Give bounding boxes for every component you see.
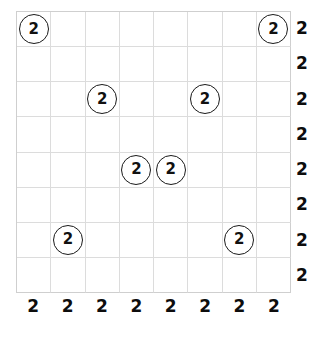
grid-cell-r6-c6[interactable]: 2 [223,223,257,258]
grid-cell-r2-c2[interactable]: 2 [86,82,120,117]
grid-cell-r7-c5[interactable] [188,258,222,293]
grid-cell-r2-c3[interactable] [120,82,154,117]
grid-cell-r1-c4[interactable] [154,47,188,82]
grid-cell-r1-c2[interactable] [86,47,120,82]
circled-number-token[interactable]: 2 [156,155,186,185]
grid-cell-r4-c4[interactable]: 2 [154,153,188,188]
grid-cell-r0-c0[interactable]: 2 [17,12,51,47]
column-clue-0: 2 [16,296,50,322]
grid-cell-r5-c2[interactable] [86,188,120,223]
grid-cell-r6-c2[interactable] [86,223,120,258]
grid-cell-r2-c5[interactable]: 2 [188,82,222,117]
grid-cell-r3-c6[interactable] [223,117,257,152]
column-clue-5: 2 [188,296,222,322]
grid-cell-r6-c5[interactable] [188,223,222,258]
grid-cell-r4-c3[interactable]: 2 [120,153,154,188]
grid-cell-r7-c0[interactable] [17,258,51,293]
circled-number-token[interactable]: 2 [224,225,254,255]
grid-cell-r4-c5[interactable] [188,153,222,188]
row-clue-1: 2 [296,46,322,81]
grid-cell-r5-c5[interactable] [188,188,222,223]
grid-cell-r5-c4[interactable] [154,188,188,223]
circled-number-token[interactable]: 2 [258,14,288,44]
grid-cell-r7-c3[interactable] [120,258,154,293]
row-clues: 22222222 [296,11,322,293]
grid-cell-r4-c7[interactable] [257,153,291,188]
grid-cell-r4-c2[interactable] [86,153,120,188]
grid-cell-r0-c3[interactable] [120,12,154,47]
circled-number-token[interactable]: 2 [53,225,83,255]
grid-cell-r5-c0[interactable] [17,188,51,223]
grid-cell-r1-c5[interactable] [188,47,222,82]
grid-cell-r0-c6[interactable] [223,12,257,47]
grid-cell-r7-c4[interactable] [154,258,188,293]
grid-cell-r0-c1[interactable] [51,12,85,47]
grid-cell-r3-c2[interactable] [86,117,120,152]
grid-cell-r3-c1[interactable] [51,117,85,152]
grid-cell-r3-c3[interactable] [120,117,154,152]
row-clue-4: 2 [296,152,322,187]
row-clue-2: 2 [296,82,322,117]
grid-cell-r6-c7[interactable] [257,223,291,258]
grid-cell-r0-c7[interactable]: 2 [257,12,291,47]
puzzle-container: 22222222 22222222 22222222 [0,0,327,338]
row-clue-6: 2 [296,223,322,258]
grid-cell-r3-c7[interactable] [257,117,291,152]
grid-cell-r5-c7[interactable] [257,188,291,223]
grid-cell-r5-c3[interactable] [120,188,154,223]
puzzle-grid[interactable]: 22222222 [16,11,291,293]
grid-cell-r3-c0[interactable] [17,117,51,152]
row-clue-7: 2 [296,258,322,293]
circled-number-token[interactable]: 2 [19,14,49,44]
column-clue-2: 2 [85,296,119,322]
column-clue-3: 2 [119,296,153,322]
grid-cell-r2-c1[interactable] [51,82,85,117]
grid-cell-r3-c4[interactable] [154,117,188,152]
column-clue-4: 2 [154,296,188,322]
grid-cell-r6-c4[interactable] [154,223,188,258]
row-clue-0: 2 [296,11,322,46]
grid-cell-r2-c7[interactable] [257,82,291,117]
grid-cell-r2-c4[interactable] [154,82,188,117]
circled-number-token[interactable]: 2 [121,155,151,185]
grid-cell-r7-c7[interactable] [257,258,291,293]
grid-cell-r0-c4[interactable] [154,12,188,47]
grid-cell-r1-c1[interactable] [51,47,85,82]
row-clue-5: 2 [296,187,322,222]
grid-cell-r7-c1[interactable] [51,258,85,293]
grid-cell-r6-c1[interactable]: 2 [51,223,85,258]
grid-cell-r4-c6[interactable] [223,153,257,188]
column-clues: 22222222 [16,296,291,322]
grid-cell-r1-c7[interactable] [257,47,291,82]
grid-cell-r5-c6[interactable] [223,188,257,223]
column-clue-6: 2 [222,296,256,322]
column-clue-7: 2 [257,296,291,322]
grid-cell-r1-c3[interactable] [120,47,154,82]
row-clue-3: 2 [296,117,322,152]
grid-cell-r3-c5[interactable] [188,117,222,152]
grid-cell-r0-c2[interactable] [86,12,120,47]
grid-cell-r7-c2[interactable] [86,258,120,293]
grid-cell-r6-c3[interactable] [120,223,154,258]
grid-cell-r0-c5[interactable] [188,12,222,47]
grid-cell-r4-c0[interactable] [17,153,51,188]
grid-cell-r2-c6[interactable] [223,82,257,117]
grid-cell-r7-c6[interactable] [223,258,257,293]
grid-cell-r6-c0[interactable] [17,223,51,258]
grid-cell-r1-c6[interactable] [223,47,257,82]
column-clue-1: 2 [50,296,84,322]
grid-cell-r5-c1[interactable] [51,188,85,223]
grid-cell-r2-c0[interactable] [17,82,51,117]
circled-number-token[interactable]: 2 [190,84,220,114]
grid-cell-r1-c0[interactable] [17,47,51,82]
circled-number-token[interactable]: 2 [87,84,117,114]
grid-cell-r4-c1[interactable] [51,153,85,188]
